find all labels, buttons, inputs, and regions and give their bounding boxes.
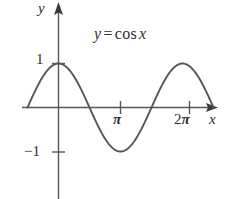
y-axis-label: y [38,1,45,16]
y-tick-label-one: 1 [36,52,44,67]
equation-x-term: x [137,25,146,42]
y-tick-label-negative-one: −1 [24,144,40,159]
x-axis-label: x [209,112,216,127]
cosine-graph-figure: y x 1 −1 π 2π y=cosx [0,0,249,199]
x-tick-label-two-pi: 2π [174,112,190,127]
equation-equals-sign: = [101,25,114,42]
equation-annotation: y=cosx [94,26,146,42]
x-tick-label-pi: π [113,112,121,127]
x-tick-label-two-pi-number: 2 [174,111,182,127]
equation-cos-function: cos [115,25,137,42]
x-tick-label-two-pi-symbol: π [182,111,190,127]
